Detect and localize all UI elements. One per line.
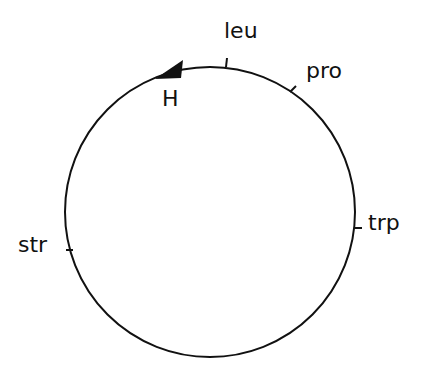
genetic-map-diagram [0, 0, 424, 376]
leu-tick [226, 58, 227, 67]
marker-label-trp: trp [368, 212, 400, 234]
marker-label-str: str [18, 234, 47, 256]
pro-tick [290, 86, 296, 92]
origin-label-h: H [162, 88, 179, 110]
marker-label-pro: pro [306, 60, 342, 82]
chromosome-circle [65, 67, 355, 357]
marker-label-leu: leu [224, 20, 258, 42]
